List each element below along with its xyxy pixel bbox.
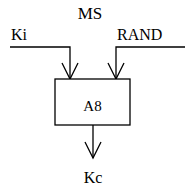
- diagram-title: MS: [78, 4, 103, 23]
- input-label-ki: Ki: [11, 26, 28, 43]
- output-label-kc: Kc: [84, 169, 103, 186]
- block-label: A8: [83, 98, 101, 114]
- output-arrow-kc: [85, 125, 101, 158]
- input-arrow-ki: [10, 47, 78, 79]
- diagram-canvas: MS Ki RAND A8 Kc: [0, 0, 195, 190]
- input-arrow-rand: [108, 47, 185, 79]
- input-label-rand: RAND: [117, 26, 162, 43]
